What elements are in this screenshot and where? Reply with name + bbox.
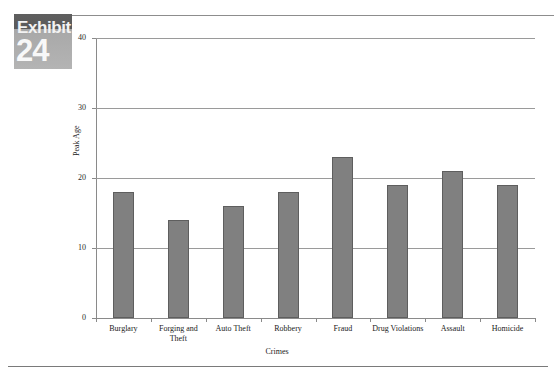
x-axis-title: Crimes <box>0 347 554 356</box>
y-axis-title: Peak Age <box>72 126 81 156</box>
x-tick-mark <box>261 318 262 322</box>
y-tick-label: 10 <box>60 243 86 252</box>
x-tick-mark <box>206 318 207 322</box>
y-tick-label: 40 <box>60 33 86 42</box>
bar <box>442 171 463 318</box>
y-tick-label: 20 <box>60 173 86 182</box>
gridline <box>96 248 535 249</box>
chart-figure: Exhibit 24 Peak Age Crimes 010203040Burg… <box>0 0 554 376</box>
x-tick-mark <box>96 318 97 322</box>
top-divider <box>72 15 554 16</box>
y-tick-mark <box>92 248 96 249</box>
x-tick-label: Drug Violations <box>370 324 425 334</box>
y-tick-mark <box>92 38 96 39</box>
y-tick-label: 30 <box>60 103 86 112</box>
gridline <box>96 178 535 179</box>
x-tick-mark <box>535 318 536 322</box>
x-tick-mark <box>370 318 371 322</box>
bar <box>387 185 408 318</box>
bar <box>223 206 244 318</box>
y-tick-label: 0 <box>60 313 86 322</box>
bar <box>497 185 518 318</box>
gridline <box>96 108 535 109</box>
x-tick-mark <box>480 318 481 322</box>
bar <box>278 192 299 318</box>
x-tick-label: Fraud <box>316 324 371 334</box>
x-tick-mark <box>425 318 426 322</box>
bar <box>168 220 189 318</box>
x-tick-label: Robbery <box>261 324 316 334</box>
y-tick-mark <box>92 108 96 109</box>
x-tick-mark <box>151 318 152 322</box>
bottom-divider <box>8 366 548 367</box>
bar <box>113 192 134 318</box>
x-tick-label: Forging and Theft <box>151 324 206 343</box>
gridline <box>96 38 535 39</box>
x-tick-label: Homicide <box>480 324 535 334</box>
x-tick-label: Burglary <box>96 324 151 334</box>
y-tick-mark <box>92 178 96 179</box>
exhibit-number: 24 <box>16 34 48 67</box>
plot-area <box>96 38 535 318</box>
x-tick-label: Auto Theft <box>206 324 261 334</box>
x-tick-label: Assault <box>425 324 480 334</box>
bar <box>332 157 353 318</box>
x-tick-mark <box>316 318 317 322</box>
